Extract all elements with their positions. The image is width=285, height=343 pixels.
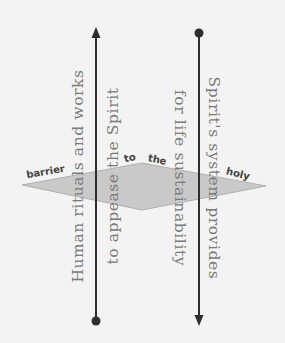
left-label-line2: to appease the Spirit xyxy=(104,87,122,264)
left-label-line1: Human rituals and works xyxy=(69,69,87,282)
dot-icon xyxy=(195,29,204,38)
right-label-line2: for life sustainability xyxy=(171,90,189,266)
dot-icon xyxy=(92,317,101,326)
right-label-line1: Spirit's system provides xyxy=(205,77,223,280)
down-arrow-icon xyxy=(195,315,204,326)
up-arrow-icon xyxy=(92,27,101,38)
diagram-canvas: Human rituals and works to appease the S… xyxy=(0,0,285,343)
